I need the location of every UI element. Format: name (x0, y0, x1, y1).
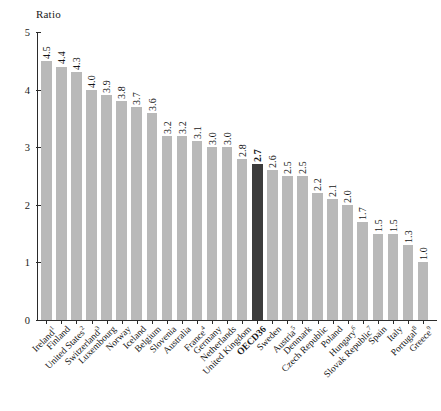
bar-column[interactable]: 2.5 (282, 32, 293, 320)
bar-column[interactable]: 2.8 (237, 32, 248, 320)
bar-value-label: 4.5 (41, 46, 52, 59)
bar-value-label: 1.7 (357, 207, 368, 220)
bar[interactable]: 4.5 (41, 61, 52, 320)
bar-column[interactable]: 1.5 (388, 32, 399, 320)
bar-value-label: 2.1 (327, 184, 338, 197)
bar[interactable]: 2.5 (282, 176, 293, 320)
y-axis-title: Ratio (36, 8, 61, 20)
bar-column[interactable]: 3.6 (147, 32, 158, 320)
bar-value-label: 3.9 (101, 80, 112, 93)
bar[interactable]: 3.0 (222, 147, 233, 320)
bar-value-label: 2.0 (342, 190, 353, 203)
footnote-marker: 6 (349, 324, 356, 331)
bar[interactable]: 4.4 (56, 67, 67, 320)
bar-value-label: 3.6 (147, 98, 158, 111)
footnote-marker: 5 (289, 324, 296, 331)
bar-value-label: 4.3 (71, 57, 82, 70)
bar-value-label: 2.8 (237, 144, 248, 157)
bar-value-label: 1.0 (418, 247, 429, 260)
bar-value-label: 3.0 (222, 132, 233, 145)
y-axis-tick-label: 5 (25, 27, 30, 38)
bar-column[interactable]: 4.3 (71, 32, 82, 320)
bar[interactable]: 3.0 (207, 147, 218, 320)
bar-value-label: 3.2 (162, 121, 173, 134)
bar[interactable]: 1.3 (403, 245, 414, 320)
bar-column[interactable]: 3.0 (207, 32, 218, 320)
footnote-marker: 8 (410, 324, 417, 331)
plot-area: 012345 4.54.44.34.03.93.83.73.63.23.23.1… (37, 32, 437, 320)
bar-column[interactable]: 3.1 (192, 32, 203, 320)
bar-value-label: 2.5 (297, 161, 308, 174)
bar[interactable]: 1.0 (418, 262, 429, 320)
bar-highlighted[interactable]: 2.7 (252, 164, 263, 320)
bar-column[interactable]: 2.2 (312, 32, 323, 320)
bar[interactable]: 3.7 (131, 107, 142, 320)
bar-column[interactable]: 1.0 (418, 32, 429, 320)
bar-value-label: 1.3 (403, 230, 414, 243)
bar[interactable]: 2.5 (297, 176, 308, 320)
bar-column[interactable]: 3.2 (162, 32, 173, 320)
bar-column[interactable]: 2.0 (342, 32, 353, 320)
bar[interactable]: 2.1 (327, 199, 338, 320)
bar-column[interactable]: 3.9 (101, 32, 112, 320)
bar[interactable]: 1.5 (388, 234, 399, 320)
bar-value-label: 3.2 (177, 121, 188, 134)
bar[interactable]: 3.1 (192, 141, 203, 320)
bar[interactable]: 1.7 (357, 222, 368, 320)
bar-chart: Ratio 012345 4.54.44.34.03.93.83.73.63.2… (0, 0, 441, 411)
bar-value-label: 2.7 (252, 149, 263, 162)
y-axis-tick-label: 2 (25, 199, 30, 210)
bar-column[interactable]: 3.8 (116, 32, 127, 320)
bar[interactable]: 3.2 (162, 136, 173, 320)
bar[interactable]: 3.6 (147, 113, 158, 320)
bar[interactable]: 3.8 (116, 101, 127, 320)
bar-column[interactable]: 3.7 (131, 32, 142, 320)
bar-value-label: 1.5 (388, 219, 399, 232)
bar[interactable]: 2.6 (267, 170, 278, 320)
bar-column[interactable]: 2.6 (267, 32, 278, 320)
footnote-marker: 4 (199, 324, 206, 331)
bar-column[interactable]: 4.4 (56, 32, 67, 320)
bar-column[interactable]: 3.0 (222, 32, 233, 320)
bar[interactable]: 3.9 (101, 95, 112, 320)
footnote-marker: 1 (48, 324, 55, 331)
bar-column[interactable]: 3.2 (177, 32, 188, 320)
footnote-marker: 7 (365, 324, 372, 331)
bar-column[interactable]: 2.5 (297, 32, 308, 320)
bar-value-label: 4.4 (56, 51, 67, 64)
bar-column[interactable]: 1.3 (403, 32, 414, 320)
bar-value-label: 1.5 (373, 219, 384, 232)
bar[interactable]: 2.0 (342, 205, 353, 320)
y-axis-tick-label: 1 (25, 257, 30, 268)
bar-value-label: 2.2 (312, 178, 323, 191)
y-axis-tick (36, 320, 41, 321)
bar-value-label: 2.6 (267, 155, 278, 168)
footnote-marker: 2 (78, 324, 85, 331)
bar-value-label: 4.0 (86, 75, 97, 88)
bar[interactable]: 3.2 (177, 136, 188, 320)
bar[interactable]: 4.0 (86, 90, 97, 320)
y-axis-tick-label: 0 (25, 315, 30, 326)
bar-value-label: 2.5 (282, 161, 293, 174)
bar-column[interactable]: 2.1 (327, 32, 338, 320)
footnote-marker: 3 (93, 324, 100, 331)
bar-column[interactable]: 1.7 (357, 32, 368, 320)
bar-value-label: 3.7 (131, 92, 142, 105)
bar-column[interactable]: 4.0 (86, 32, 97, 320)
bar[interactable]: 4.3 (71, 72, 82, 320)
bar[interactable]: 2.8 (237, 159, 248, 320)
bar-column[interactable]: 4.5 (41, 32, 52, 320)
y-axis-tick-label: 3 (25, 142, 30, 153)
bar[interactable]: 2.2 (312, 193, 323, 320)
x-axis-category-labels: Ireland1FinlandUnited States2Switzerland… (37, 324, 437, 410)
bar-value-label: 3.0 (207, 132, 218, 145)
bar-value-label: 3.8 (116, 86, 127, 99)
bar-value-label: 3.1 (192, 126, 203, 139)
bar-column[interactable]: 2.7 (252, 32, 263, 320)
bar-column[interactable]: 1.5 (373, 32, 384, 320)
bar-series: 4.54.44.34.03.93.83.73.63.23.23.13.03.02… (37, 32, 437, 320)
y-axis-tick-label: 4 (25, 84, 30, 95)
footnote-marker: 9 (425, 324, 432, 331)
bar[interactable]: 1.5 (373, 234, 384, 320)
